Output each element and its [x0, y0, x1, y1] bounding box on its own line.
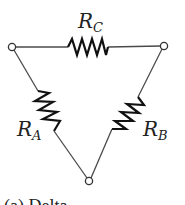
wire-right-upper [138, 49, 162, 97]
terminal-right [160, 42, 167, 49]
resistor-rc-icon [68, 39, 108, 55]
terminal-left [8, 43, 15, 50]
label-rb: RB [142, 117, 168, 143]
wire-left-upper [14, 50, 38, 91]
resistor-rb-icon [112, 97, 144, 129]
delta-network-diagram: RC RA RB (a) Delta [0, 0, 185, 205]
wire-left-lower [54, 131, 87, 178]
terminal-bottom [85, 177, 92, 184]
label-ra: RA [16, 117, 41, 143]
label-rc: RC [77, 9, 103, 35]
caption: (a) Delta [4, 196, 67, 205]
wire-top-right [108, 46, 161, 47]
resistor-ra-icon [35, 91, 60, 131]
wire-right-lower [91, 129, 112, 178]
